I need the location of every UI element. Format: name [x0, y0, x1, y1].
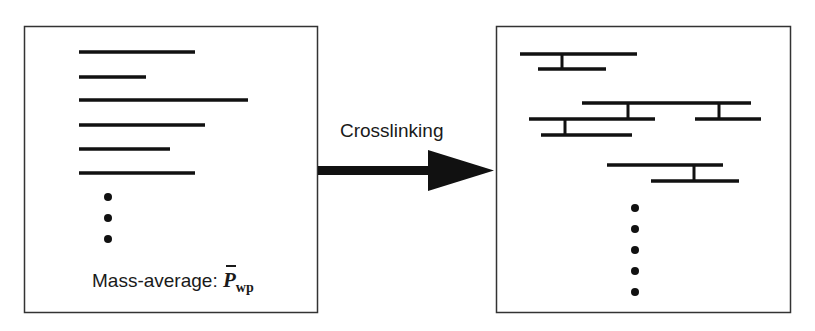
- mass-average-caption: Mass-average: Pwp: [92, 268, 254, 293]
- right-ellipsis-dots: [631, 204, 639, 296]
- mass-average-label: Mass-average:: [92, 270, 218, 291]
- mass-average-symbol: P: [223, 268, 236, 292]
- crosslinked-chains: [520, 54, 761, 181]
- arrow-label: Crosslinking: [340, 120, 443, 142]
- left-ellipsis-dots: [104, 193, 112, 243]
- arrow-right-icon: [318, 150, 494, 191]
- mass-average-subscript: wp: [236, 280, 254, 295]
- linear-chains: [79, 52, 248, 173]
